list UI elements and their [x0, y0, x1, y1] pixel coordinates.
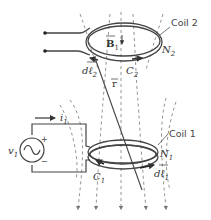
n1-label: N1	[159, 148, 173, 162]
minus-sign: −	[41, 157, 48, 166]
n2-label: N2	[161, 44, 176, 58]
c2-label: C2	[126, 65, 139, 79]
r-label: r	[112, 78, 117, 89]
coil-2	[43, 23, 162, 61]
coil-1-label: Coil 1	[169, 128, 196, 139]
coil-2-label: Coil 2	[171, 17, 198, 28]
dl1-label: dℓ1	[154, 168, 169, 182]
sine-icon	[24, 146, 40, 155]
mutual-inductance-diagram: Coil 2 N2 B1 C2 dℓ2 r Coil 1 N1 dℓ1 C1 v…	[0, 0, 211, 220]
coil-2-leader	[160, 27, 170, 35]
c1-label: C1	[93, 171, 105, 185]
terminal-bottom	[43, 49, 47, 53]
source-circuit	[20, 118, 90, 172]
coil-1-leader	[158, 134, 168, 145]
v1-label: v1	[8, 145, 18, 159]
terminal-top	[43, 31, 47, 35]
dl2-label: dℓ2	[82, 65, 98, 79]
plus-sign: +	[41, 135, 48, 144]
b1-label: B1	[106, 38, 119, 52]
